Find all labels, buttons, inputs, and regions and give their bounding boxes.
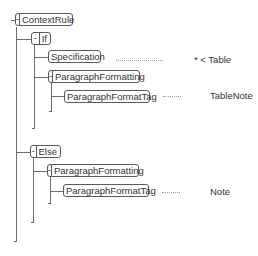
- else-connector: [16, 152, 30, 153]
- paragraph-formatting-branch-end: [48, 203, 51, 204]
- node-if[interactable]: - If: [31, 32, 51, 45]
- node-label: ParagraphFormatting: [52, 165, 147, 176]
- node-label: ParagraphFormatting: [53, 71, 148, 82]
- node-else[interactable]: - Else: [30, 145, 61, 158]
- node-paragraph-format-tag[interactable]: ParagraphFormatTag: [63, 184, 149, 197]
- paragraph-formatting-connector: [33, 171, 47, 172]
- node-label: If: [40, 33, 50, 44]
- root-branch-end: [14, 241, 17, 242]
- else-branch-line: [33, 158, 34, 222]
- node-paragraph-formatting[interactable]: - ParagraphFormatting: [48, 70, 140, 83]
- value-leader-line: [163, 96, 181, 97]
- paragraph-format-tag-value[interactable]: Note: [210, 186, 230, 197]
- node-specification[interactable]: Specification: [48, 50, 101, 63]
- paragraph-formatting-branch-end: [49, 111, 52, 112]
- node-label: ContextRule: [20, 14, 77, 25]
- node-paragraph-formatting[interactable]: - ParagraphFormatting: [47, 164, 139, 177]
- value-leader-line: [116, 60, 163, 61]
- node-label: Specification: [49, 51, 108, 62]
- if-connector: [16, 39, 31, 40]
- node-label: ParagraphFormatTag: [64, 185, 159, 196]
- node-paragraph-format-tag[interactable]: ParagraphFormatTag: [64, 90, 150, 103]
- paragraph-format-tag-connector: [50, 191, 63, 192]
- if-branch-end: [32, 128, 35, 129]
- paragraph-format-tag-connector: [51, 96, 64, 97]
- root-branch-line: [16, 27, 17, 241]
- paragraph-formatting-connector: [34, 77, 48, 78]
- node-context-rule[interactable]: - ContextRule: [15, 13, 73, 26]
- paragraph-formatting-branch-line: [50, 177, 51, 203]
- node-label: Else: [37, 146, 60, 157]
- else-branch-end: [31, 222, 34, 223]
- collapse-toggle[interactable]: -: [32, 33, 40, 44]
- node-label: ParagraphFormatTag: [65, 91, 160, 102]
- value-leader-line: [162, 192, 180, 193]
- specification-connector: [34, 57, 48, 58]
- paragraph-format-tag-value[interactable]: TableNote: [210, 90, 253, 101]
- specification-value[interactable]: * < Table: [194, 54, 231, 65]
- paragraph-formatting-branch-line: [51, 83, 52, 111]
- structure-tree: - ContextRule - If Specification * < Tab…: [0, 0, 258, 256]
